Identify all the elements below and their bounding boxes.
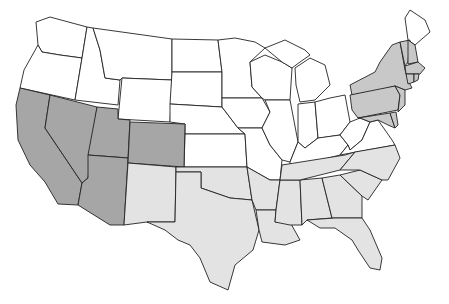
state-montana <box>93 28 172 80</box>
state-south-dakota <box>170 72 222 107</box>
state-wyoming <box>118 78 172 122</box>
us-map <box>0 0 449 304</box>
state-mississippi <box>275 180 302 225</box>
state-new-mexico <box>124 163 176 225</box>
state-kansas <box>184 134 247 167</box>
group-northeast <box>350 40 425 128</box>
state-maine <box>405 10 430 45</box>
state-rhode-island <box>414 74 419 82</box>
state-north-dakota <box>172 39 222 72</box>
state-florida <box>307 218 382 270</box>
state-colorado <box>128 122 185 167</box>
